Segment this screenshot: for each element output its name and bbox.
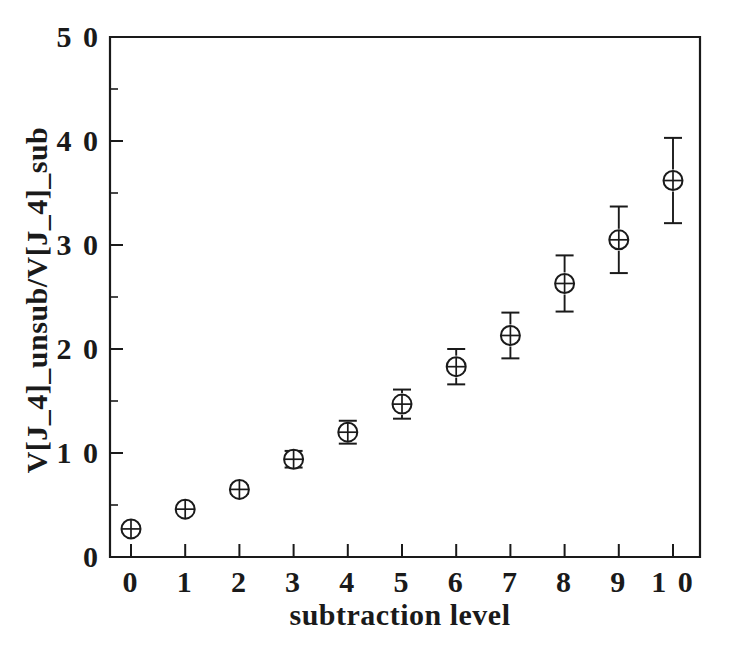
x-axis-tick-label: 5 — [394, 565, 411, 598]
data-point — [338, 421, 357, 444]
chart-page: 01 02 03 04 05 001234567891 0 V[J_4]_uns… — [0, 0, 734, 646]
y-axis-tick-label: 5 0 — [57, 20, 101, 53]
data-point — [122, 519, 141, 538]
y-axis-tick-label: 2 0 — [57, 332, 101, 365]
x-axis-tick-label: 0 — [123, 565, 140, 598]
x-axis-tick-label: 6 — [448, 565, 465, 598]
data-point — [176, 500, 195, 519]
data-point — [284, 450, 303, 469]
x-axis-title: subtraction level — [290, 598, 511, 631]
y-axis-tick-label: 1 0 — [57, 436, 101, 469]
x-axis-tick-label: 3 — [285, 565, 302, 598]
x-axis-tick-label: 1 0 — [651, 565, 695, 598]
x-axis-tick-label: 9 — [610, 565, 627, 598]
scatter-plot-figure: 01 02 03 04 05 001234567891 0 V[J_4]_uns… — [0, 0, 734, 646]
x-axis-tick-label: 1 — [177, 565, 194, 598]
x-axis-tick-label: 8 — [556, 565, 573, 598]
x-axis-tick-label: 4 — [339, 565, 356, 598]
data-point — [230, 480, 249, 499]
y-axis-tick-label: 4 0 — [57, 124, 101, 157]
x-axis-tick-label: 7 — [502, 565, 519, 598]
y-axis-tick-label: 0 — [83, 540, 100, 573]
y-axis-tick-label: 3 0 — [57, 228, 101, 261]
y-axis-title: V[J_4]_unsub/V[J_4]_sub — [20, 127, 53, 474]
x-axis-tick-label: 2 — [231, 565, 248, 598]
